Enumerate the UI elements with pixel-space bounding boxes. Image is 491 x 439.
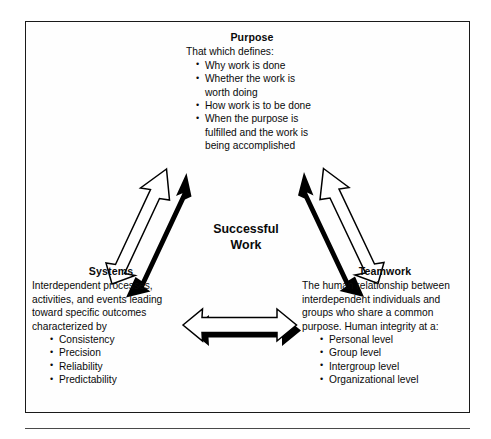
- diagram-canvas: Purpose That which defines: Why work is …: [0, 0, 491, 439]
- list-item: Why work is done: [194, 59, 318, 72]
- list-item: Predictability: [48, 373, 190, 386]
- node-systems: Systems Interdependent processes, activi…: [32, 265, 190, 387]
- center-label-line-1: Successful: [196, 221, 296, 237]
- node-systems-heading: Systems: [32, 265, 190, 278]
- node-center-label: Successful Work: [196, 221, 296, 253]
- list-item: Precision: [48, 346, 190, 359]
- node-teamwork-heading: Teamwork: [302, 265, 468, 278]
- node-purpose-heading: Purpose: [186, 31, 318, 44]
- node-teamwork-bullets: Personal level Group level Intergroup le…: [318, 333, 468, 387]
- list-item: Consistency: [48, 333, 190, 346]
- list-item: Personal level: [318, 333, 468, 346]
- node-teamwork: Teamwork The human relationship between …: [302, 265, 468, 387]
- list-item: When the purpose is fulfilled and the wo…: [194, 112, 318, 152]
- node-systems-bullets: Consistency Precision Reliability Predic…: [48, 333, 190, 387]
- list-item: Intergroup level: [318, 360, 468, 373]
- bottom-separator-rule: [25, 428, 470, 429]
- node-purpose-lead: That which defines:: [186, 45, 318, 58]
- center-label-line-2: Work: [196, 237, 296, 253]
- list-item: Whether the work is worth doing: [194, 72, 318, 99]
- list-item: How work is to be done: [194, 99, 318, 112]
- node-purpose: Purpose That which defines: Why work is …: [186, 31, 318, 153]
- list-item: Group level: [318, 346, 468, 359]
- list-item: Organizational level: [318, 373, 468, 386]
- node-systems-lead: Interdependent processes, activities, an…: [32, 279, 190, 333]
- list-item: Reliability: [48, 360, 190, 373]
- node-purpose-bullets: Why work is done Whether the work is wor…: [194, 59, 318, 153]
- node-teamwork-lead: The human relationship between interdepe…: [302, 279, 468, 333]
